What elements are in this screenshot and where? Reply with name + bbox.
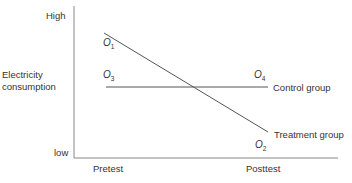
x-pretest-label: Pretest — [93, 163, 123, 174]
o1-label: O1 — [103, 37, 114, 50]
y-low-label: low — [54, 147, 68, 158]
x-posttest-label: Posttest — [246, 163, 280, 174]
treatment-line — [104, 33, 268, 132]
y-high-label: High — [46, 10, 66, 21]
control-group-label: Control group — [273, 82, 331, 93]
o2-label: O2 — [255, 139, 266, 152]
y-axis-label-2: consumption — [2, 81, 56, 92]
o3-label: O3 — [103, 69, 114, 82]
o4-label: O4 — [254, 69, 265, 82]
y-axis-label-1: Electricity — [2, 69, 43, 80]
treatment-group-label: Treatment group — [274, 129, 344, 140]
